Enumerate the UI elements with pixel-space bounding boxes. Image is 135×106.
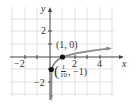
grid [10, 7, 114, 96]
y-axis-label: y [41, 4, 45, 14]
tick-x-4: 4 [97, 59, 102, 69]
fraction: 1 10 [60, 64, 67, 79]
point-1-0 [60, 54, 65, 59]
tick-y-neg2: −2 [34, 78, 45, 88]
tick-y-2: 2 [41, 26, 46, 36]
x-axis-label: x [122, 59, 126, 69]
log-graph [0, 0, 135, 106]
curve-arrow-icon [106, 47, 112, 51]
axes [10, 9, 122, 100]
point-tenth-rest: , −1) [68, 67, 87, 77]
y-axis-arrow-icon [48, 7, 52, 12]
point-tenth-label: ( 1 10 , −1) [54, 64, 87, 79]
fraction-denominator: 10 [60, 72, 67, 79]
point-1-0-label: (1, 0) [56, 40, 78, 50]
tick-x-neg2: −2 [14, 59, 25, 69]
paren-open: ( [54, 64, 59, 79]
